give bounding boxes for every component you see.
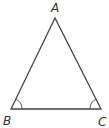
triangle-abc: [11, 18, 101, 109]
vertex-label-a: A: [50, 1, 59, 15]
triangle-diagram: A B C: [0, 0, 109, 128]
angle-mark-c: [90, 99, 96, 109]
vertex-label-c: C: [98, 115, 107, 128]
vertex-label-b: B: [3, 114, 11, 128]
angle-mark-b: [16, 99, 22, 109]
